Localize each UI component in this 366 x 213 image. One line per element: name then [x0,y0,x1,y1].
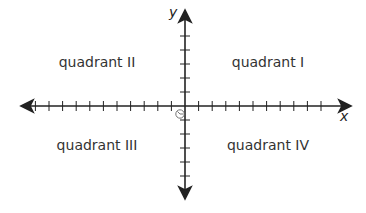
quadrant-ii-label: quadrant II [59,54,136,70]
quadrant-i-label: quadrant I [232,54,305,70]
coordinate-plane [0,0,366,213]
x-axis [21,100,351,112]
origin-marker-icon [176,110,184,118]
x-axis-label: x [340,108,348,124]
quadrant-iv-label: quadrant IV [227,137,309,153]
y-axis [179,10,191,199]
y-axis-label: y [169,4,177,20]
quadrant-iii-label: quadrant III [57,137,138,153]
